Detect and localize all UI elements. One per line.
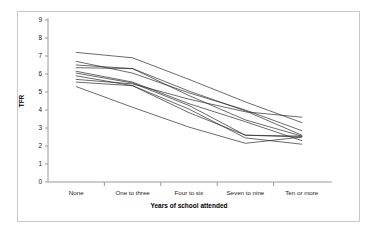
y-tick-label-5: 5	[38, 88, 42, 95]
y-tick-label-4: 4	[38, 106, 42, 113]
x-category-label-3: Seven to nine	[226, 189, 264, 196]
y-tick-label-7: 7	[38, 52, 42, 59]
series-lines	[76, 52, 302, 144]
y-tick-label-8: 8	[38, 34, 42, 41]
y-tick-label-0: 0	[38, 178, 42, 185]
series-line-series-1	[76, 52, 302, 122]
x-category-label-4: Ten or more	[285, 189, 319, 196]
y-tick-label-9: 9	[38, 16, 42, 23]
x-category-label-1: One to three	[115, 189, 150, 196]
tfr-by-education-line-chart: 0123456789 NoneOne to threeFour to sixSe…	[0, 0, 382, 237]
y-tick-label-1: 1	[38, 160, 42, 167]
x-axis	[48, 182, 332, 186]
series-line-series-8	[76, 79, 302, 117]
y-tick-label-2: 2	[38, 142, 42, 149]
y-tick-label-6: 6	[38, 70, 42, 77]
series-line-series-10	[76, 87, 302, 144]
x-axis-title: Years of school attended	[151, 202, 228, 209]
y-axis: 0123456789	[38, 16, 48, 185]
axis-labels: NoneOne to threeFour to sixSeven to nine…	[18, 94, 319, 209]
x-category-label-0: None	[69, 189, 84, 196]
y-axis-title: TFR	[18, 94, 25, 107]
x-category-label-2: Four to six	[175, 189, 205, 196]
y-tick-label-3: 3	[38, 124, 42, 131]
series-line-series-3	[76, 65, 302, 136]
